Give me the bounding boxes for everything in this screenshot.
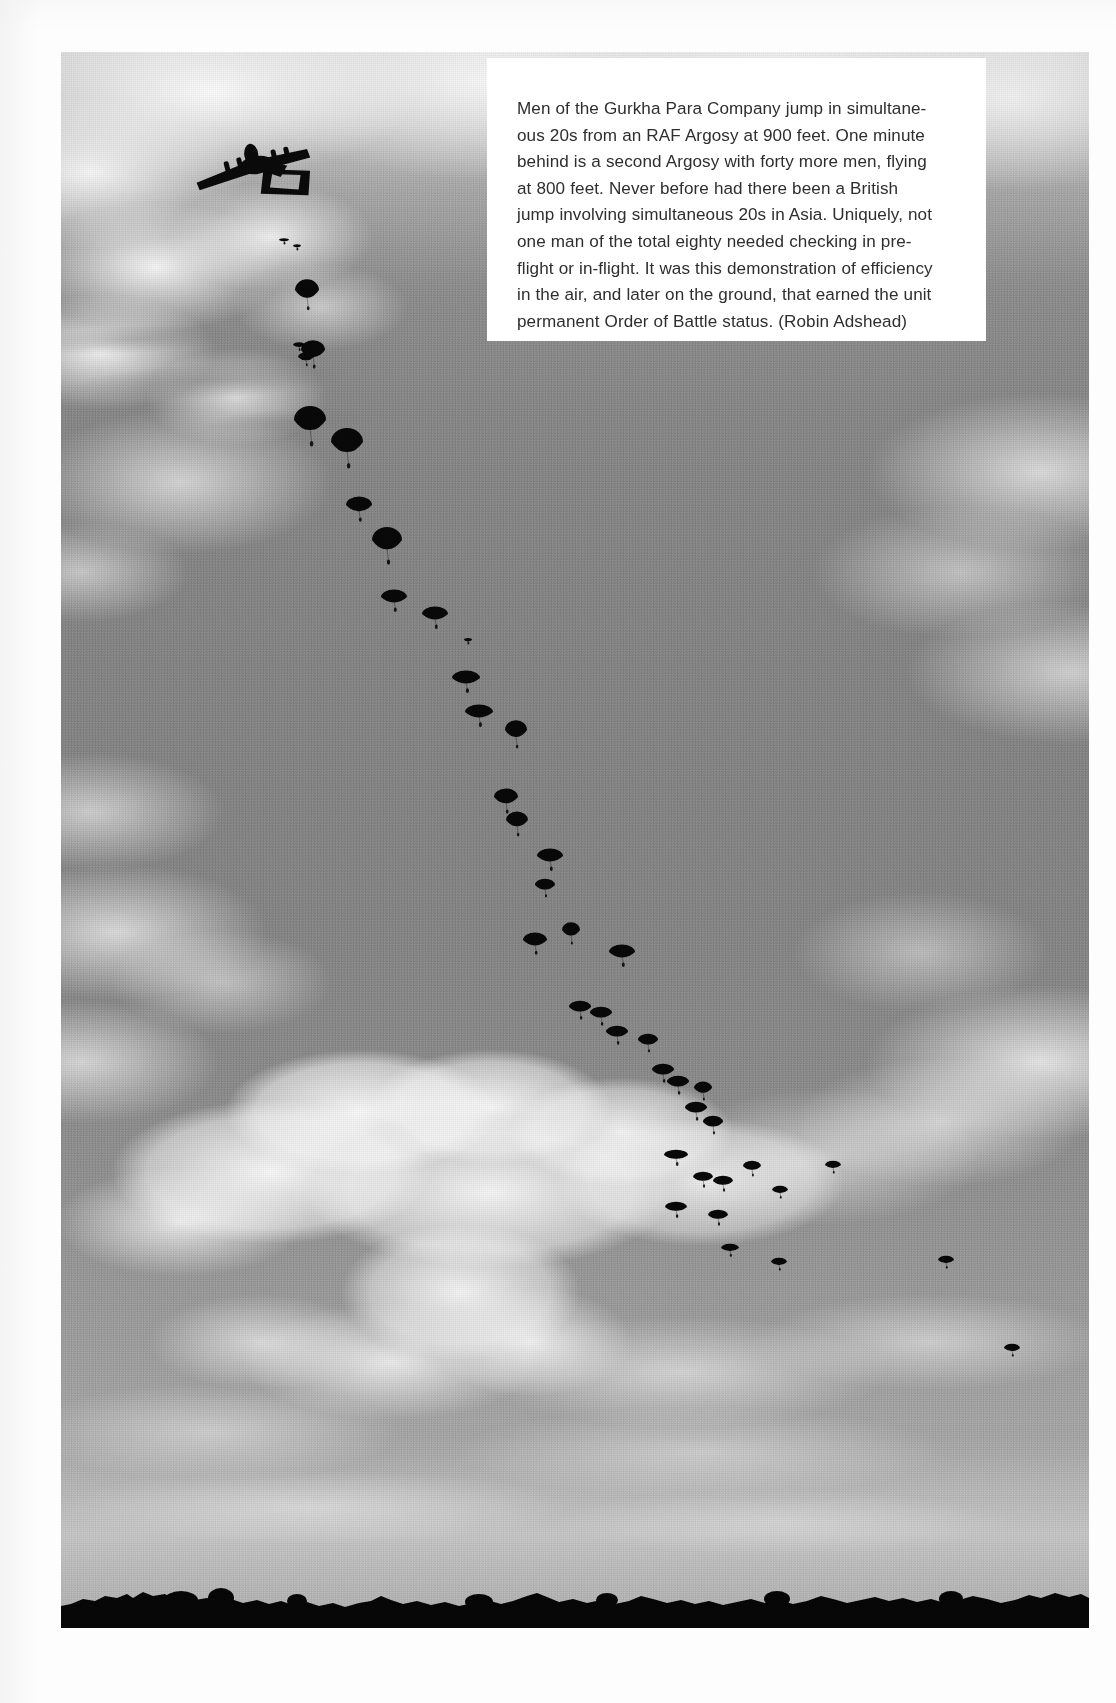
caption-line: jump involving simultaneous 20s in Asia.…: [517, 202, 954, 229]
caption-line: behind is a second Argosy with forty mor…: [517, 149, 954, 176]
caption-line: in the air, and later on the ground, tha…: [517, 282, 954, 309]
caption-box: Men of the Gurkha Para Company jump in s…: [487, 58, 986, 341]
caption-line: flight or in-flight. It was this demonst…: [517, 256, 954, 283]
caption-line: one man of the total eighty needed check…: [517, 229, 954, 256]
book-page: Men of the Gurkha Para Company jump in s…: [0, 0, 1116, 1703]
caption-line: at 800 feet. Never before had there been…: [517, 176, 954, 203]
caption-line: Men of the Gurkha Para Company jump in s…: [517, 96, 954, 123]
argosy-aircraft-icon: [192, 132, 324, 217]
caption-line: ous 20s from an RAF Argosy at 900 feet. …: [517, 123, 954, 150]
caption-line: permanent Order of Battle status. (Robin…: [517, 309, 954, 336]
treeline-horizon: [61, 1582, 1089, 1628]
caption-text: Men of the Gurkha Para Company jump in s…: [517, 96, 954, 335]
